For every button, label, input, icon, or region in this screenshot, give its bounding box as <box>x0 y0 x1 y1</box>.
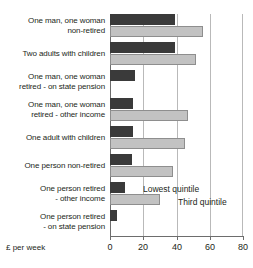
category-label-line: retired - other income <box>0 110 105 120</box>
category-label-line: retired - on state pension <box>0 82 105 92</box>
bar-lowest-4 <box>110 126 133 137</box>
category-axis-labels: One man, one woman non-retired Two adult… <box>0 14 105 236</box>
category-label-line: One adult with children <box>0 133 105 143</box>
x-tick-80 <box>243 236 244 240</box>
x-tick-label-60: 60 <box>198 242 222 253</box>
category-label-line: non-retired <box>0 26 105 36</box>
bar-lowest-5 <box>110 154 132 165</box>
bar-third-4 <box>110 138 185 149</box>
category-label-3: One man, one woman retired - other incom… <box>0 100 105 120</box>
x-tick-20 <box>143 236 144 240</box>
bar-lowest-7 <box>110 210 117 221</box>
category-label-2: One man, one woman retired - on state pe… <box>0 72 105 92</box>
x-tick-label-80: 80 <box>231 242 253 253</box>
x-tick-40 <box>177 236 178 240</box>
category-label-line: One person non-retired <box>0 161 105 171</box>
x-axis-caption: £ per week <box>0 243 104 253</box>
bar-third-1 <box>110 54 196 65</box>
x-tick-0 <box>110 236 111 240</box>
bar-third-3 <box>110 110 188 121</box>
category-label-line: One man, one woman <box>0 16 105 26</box>
legend-label-third-quintile: Third quintile <box>178 197 227 207</box>
bar-lowest-0 <box>110 14 175 25</box>
bar-third-0 <box>110 26 203 37</box>
x-tick-60 <box>210 236 211 240</box>
category-label-0: One man, one woman non-retired <box>0 16 105 36</box>
bar-lowest-1 <box>110 42 175 53</box>
bar-third-5 <box>110 166 173 177</box>
bar-lowest-3 <box>110 98 133 109</box>
category-label-line: Two adults with children <box>0 49 105 59</box>
category-label-line: One person retired <box>0 184 105 194</box>
category-label-line: - other income <box>0 194 105 204</box>
category-label-6: One person retired - other income <box>0 184 105 204</box>
bar-third-6 <box>110 194 160 205</box>
category-label-line: One person retired <box>0 212 105 222</box>
legend-label-lowest-quintile: Lowest quintile <box>143 184 199 194</box>
bar-lowest-2 <box>110 70 135 81</box>
x-tick-label-20: 20 <box>131 242 155 253</box>
bar-chart: One man, one woman non-retired Two adult… <box>0 0 253 268</box>
category-label-4: One adult with children <box>0 133 105 143</box>
category-label-line: One man, one woman <box>0 72 105 82</box>
category-label-1: Two adults with children <box>0 49 105 59</box>
category-label-7: One person retired - on state pension <box>0 212 105 232</box>
x-tick-label-40: 40 <box>165 242 189 253</box>
gridline-80 <box>242 14 243 236</box>
category-label-line: One man, one woman <box>0 100 105 110</box>
category-label-line: - on state pension <box>0 222 105 232</box>
bar-lowest-6 <box>110 182 125 193</box>
category-label-5: One person non-retired <box>0 161 105 171</box>
